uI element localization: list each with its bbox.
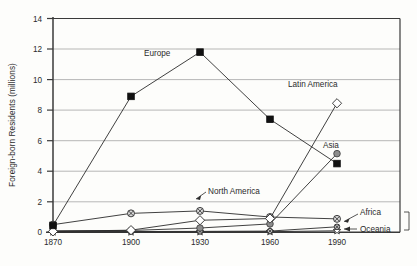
y-tick-label-6: 6	[37, 137, 42, 146]
marker-square	[128, 93, 135, 100]
y-tick-label-8: 8	[37, 106, 42, 115]
data-point-europe-1900	[128, 93, 135, 100]
y-axis-title: Foreign-born Residents (millions)	[8, 63, 17, 187]
line-chart-svg: 14 12 10 8 6 4 2 0 Foreign-born Resident…	[0, 0, 417, 266]
marker-square	[267, 116, 274, 123]
x-tick-label-1870: 1870	[44, 238, 63, 247]
data-point-north-america-1930	[197, 207, 204, 214]
chart-background	[0, 0, 417, 266]
x-tick-label-1900: 1900	[122, 238, 141, 247]
y-tick-label-12: 12	[33, 45, 43, 54]
data-point-asia-1990	[334, 150, 341, 157]
series-label-north-america: North America	[208, 187, 260, 196]
data-point-asia-1930	[197, 225, 204, 232]
series-label-africa: Africa	[360, 208, 381, 217]
data-point-north-america-1990	[334, 215, 341, 222]
marker-square	[197, 49, 204, 56]
x-tick-label-1930: 1930	[191, 238, 210, 247]
data-point-europe-1990	[334, 160, 341, 167]
marker-circle	[197, 225, 204, 232]
data-point-europe-1960	[267, 116, 274, 123]
series-label-oceania: Oceania	[360, 225, 391, 234]
y-tick-label-14: 14	[33, 15, 43, 24]
data-point-europe-1870	[50, 222, 57, 229]
marker-circle	[334, 150, 341, 157]
series-label-asia: Asia	[323, 141, 339, 150]
y-tick-label-10: 10	[33, 76, 43, 85]
y-tick-label-0: 0	[37, 228, 42, 237]
data-point-africa-1990	[334, 224, 340, 230]
series-label-latin-america: Latin America	[288, 80, 338, 89]
marker-square	[334, 160, 341, 167]
marker-square	[50, 222, 57, 229]
chart-figure: 14 12 10 8 6 4 2 0 Foreign-born Resident…	[0, 0, 417, 266]
data-point-europe-1930	[197, 49, 204, 56]
x-tick-label-1990: 1990	[328, 238, 347, 247]
y-tick-label-4: 4	[37, 167, 42, 176]
data-point-north-america-1900	[128, 210, 135, 217]
data-point-africa-1960	[267, 228, 273, 234]
series-label-europe: Europe	[144, 49, 171, 58]
y-tick-label-2: 2	[37, 198, 42, 207]
x-tick-label-1960: 1960	[261, 238, 280, 247]
